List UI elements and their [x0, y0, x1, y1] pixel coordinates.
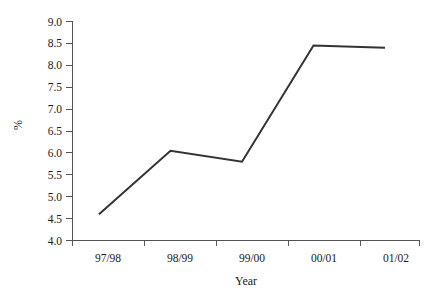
- x-tick-label: 98/99: [167, 252, 193, 264]
- y-tick-label: 8.0: [48, 59, 63, 71]
- chart-canvas: 9.0 8.5 8.0 7.5 7.0 6.5 6.0 5.5 5.0 4.5 …: [0, 0, 439, 294]
- x-tick-label: 97/98: [95, 252, 121, 264]
- x-axis-title: Year: [235, 274, 257, 288]
- x-tick-label: 99/00: [239, 252, 265, 264]
- y-tick-label: 7.5: [48, 81, 63, 93]
- line-chart: 9.0 8.5 8.0 7.5 7.0 6.5 6.0 5.5 5.0 4.5 …: [0, 0, 439, 294]
- y-tick-label: 8.5: [48, 37, 63, 49]
- y-tick-label: 5.5: [48, 169, 63, 181]
- data-series-line: [99, 46, 385, 215]
- y-tick-label: 7.0: [48, 103, 63, 115]
- y-tick-label: 6.5: [48, 125, 63, 137]
- y-tick-label: 4.5: [48, 213, 63, 225]
- x-tick-label: 01/02: [383, 252, 409, 264]
- x-tick-labels: 97/98 98/99 99/00 00/01 01/02: [95, 252, 409, 264]
- y-tick-label: 5.0: [48, 191, 63, 203]
- y-tick-label: 4.0: [48, 235, 63, 247]
- y-tick-label: 6.0: [48, 147, 63, 159]
- y-tick-label: 9.0: [48, 16, 63, 28]
- x-tick-label: 00/01: [311, 252, 337, 264]
- y-tick-marks: [66, 22, 72, 241]
- y-tick-labels: 9.0 8.5 8.0 7.5 7.0 6.5 6.0 5.5 5.0 4.5 …: [48, 16, 63, 247]
- y-axis-title: %: [11, 120, 25, 130]
